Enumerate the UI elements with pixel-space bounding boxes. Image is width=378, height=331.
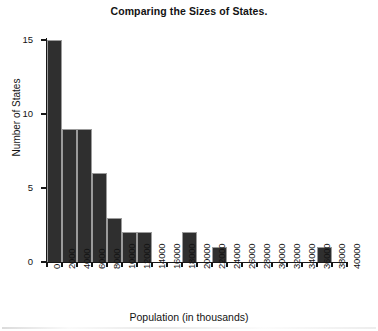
x-axis-tick xyxy=(316,262,317,267)
y-axis-tick-label: 5 xyxy=(1,182,33,193)
x-axis-tick-label: 12000 xyxy=(141,244,152,269)
x-axis-tick xyxy=(241,262,242,267)
x-axis-tick-label: 18000 xyxy=(186,244,197,269)
x-axis-tick-label: 20000 xyxy=(201,244,212,269)
x-axis-tick xyxy=(181,262,182,267)
x-axis-tick xyxy=(106,262,107,267)
x-axis-tick-label: 0 xyxy=(51,264,62,269)
x-axis-tick xyxy=(286,262,287,267)
x-axis-tick-label: 28000 xyxy=(261,244,272,269)
x-axis-tick-label: 8000 xyxy=(111,249,122,269)
x-axis-title: Population (in thousands) xyxy=(0,311,378,323)
x-axis-tick-label: 24000 xyxy=(231,244,242,269)
x-axis-tick-label: 26000 xyxy=(246,244,257,269)
plot-area xyxy=(47,40,347,262)
x-axis-tick-label: 6000 xyxy=(96,249,107,269)
y-axis-tick-label: 15 xyxy=(1,34,33,45)
x-axis-tick xyxy=(136,262,137,267)
x-axis-tick-label: 10000 xyxy=(126,244,137,269)
x-axis-tick-label: 40000 xyxy=(351,244,362,269)
histogram-chart: Comparing the Sizes of States. 051015 02… xyxy=(0,0,378,331)
x-axis-tick xyxy=(151,262,152,267)
x-axis-tick-label: 4000 xyxy=(81,249,92,269)
x-axis-tick xyxy=(46,262,47,267)
page-edge-artifact xyxy=(2,327,376,329)
x-axis-tick-label: 36000 xyxy=(321,244,332,269)
bar xyxy=(62,129,77,262)
y-axis-tick xyxy=(41,113,47,114)
x-axis-tick xyxy=(121,262,122,267)
x-axis-tick-label: 2000 xyxy=(66,249,77,269)
x-axis-tick xyxy=(226,262,227,267)
bar xyxy=(77,129,92,262)
y-axis-tick xyxy=(41,187,47,188)
chart-title: Comparing the Sizes of States. xyxy=(0,5,378,17)
x-axis-tick xyxy=(166,262,167,267)
x-axis-tick xyxy=(196,262,197,267)
x-axis-tick xyxy=(211,262,212,267)
y-axis-tick xyxy=(41,39,47,40)
x-axis-tick xyxy=(91,262,92,267)
x-axis-tick-label: 32000 xyxy=(291,244,302,269)
x-axis-tick-label: 30000 xyxy=(276,244,287,269)
y-axis-tick-label: 0 xyxy=(1,256,33,267)
x-axis-tick xyxy=(256,262,257,267)
y-axis-title: Number of States xyxy=(11,58,22,178)
x-axis-tick-label: 14000 xyxy=(156,244,167,269)
x-axis-tick-label: 22000 xyxy=(216,244,227,269)
x-axis-tick-label: 34000 xyxy=(306,244,317,269)
x-axis-tick xyxy=(346,262,347,267)
x-axis-tick-label: 38000 xyxy=(336,244,347,269)
x-axis-tick xyxy=(61,262,62,267)
bar xyxy=(47,40,62,262)
x-axis-tick xyxy=(331,262,332,267)
x-axis-tick-label: 16000 xyxy=(171,244,182,269)
x-axis-tick xyxy=(271,262,272,267)
x-axis-tick xyxy=(301,262,302,267)
x-axis-tick xyxy=(76,262,77,267)
